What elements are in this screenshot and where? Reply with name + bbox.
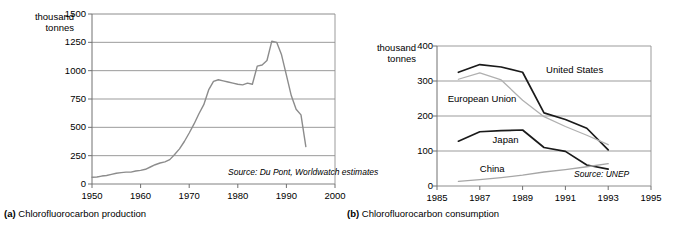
series-label-united-states: United States	[546, 64, 603, 75]
y-tick-400: 400	[389, 40, 433, 51]
caption-text-a: Chlorofluorocarbon production	[18, 208, 146, 219]
x-tick-1995: 1995	[629, 192, 673, 203]
x-tick-1950: 1950	[70, 190, 114, 201]
unit-line-2-b: tonnes	[387, 53, 416, 64]
x-tick-1985: 1985	[415, 192, 459, 203]
caption-marker-b: (b)	[347, 208, 359, 219]
x-tick-1989: 1989	[501, 192, 545, 203]
x-tick-1990: 1990	[264, 190, 308, 201]
x-tick-1993: 1993	[586, 192, 630, 203]
source-note-consumption: Source: UNEP	[574, 169, 629, 179]
unit-line-2: tonnes	[45, 22, 74, 33]
x-tick-1987: 1987	[458, 192, 502, 203]
y-tick-300: 300	[389, 75, 433, 86]
caption-panel-a: (a) Chlorofluorocarbon production	[4, 208, 146, 219]
series-label-japan: Japan	[493, 134, 519, 145]
x-tick-1970: 1970	[167, 190, 211, 201]
y-tick-500: 500	[40, 121, 86, 132]
y-tick-0-b: 0	[389, 180, 433, 191]
x-tick-1980: 1980	[216, 190, 260, 201]
x-tick-1960: 1960	[119, 190, 163, 201]
y-tick-1250: 1250	[40, 36, 86, 47]
series-label-european-union: European Union	[448, 93, 517, 104]
cfc-figure: thousandtonnes 1500 1250 1000 750 500 25…	[0, 0, 679, 227]
caption-panel-b: (b) Chlorofluorocarbon consumption	[347, 208, 499, 219]
caption-text-b: Chlorofluorocarbon consumption	[362, 208, 499, 219]
y-tick-200: 200	[389, 110, 433, 121]
y-tick-250: 250	[40, 150, 86, 161]
x-tick-1991: 1991	[543, 192, 587, 203]
y-tick-100: 100	[389, 145, 433, 156]
panel-cfc-production: thousandtonnes 1500 1250 1000 750 500 25…	[0, 0, 340, 227]
y-tick-0: 0	[40, 178, 86, 189]
y-tick-1000: 1000	[40, 65, 86, 76]
caption-marker-a: (a)	[4, 208, 16, 219]
series-label-china: China	[480, 163, 505, 174]
y-tick-1500: 1500	[40, 8, 86, 19]
y-tick-750: 750	[40, 93, 86, 104]
